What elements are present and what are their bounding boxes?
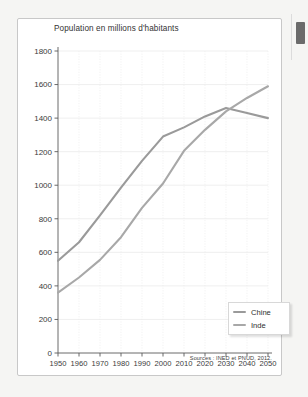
chart-legend: Chine Inde <box>228 302 290 335</box>
y-tick-label: 1600 <box>34 80 52 89</box>
legend-item-inde[interactable]: Inde <box>233 319 266 331</box>
scrollbar-track[interactable] <box>291 14 292 60</box>
legend-label-inde: Inde <box>251 321 266 330</box>
x-tick-label: 1950 <box>50 359 67 368</box>
chart-card: Population en millions d'habitants 02004… <box>17 18 282 376</box>
y-tick-label: 1400 <box>34 114 52 123</box>
x-tick-label: 1970 <box>92 359 109 368</box>
y-tick-label: 0 <box>48 349 53 358</box>
x-tick-label: 1990 <box>134 359 151 368</box>
y-tick-label: 800 <box>39 215 53 224</box>
y-axis-ticks <box>55 51 59 353</box>
x-tick-label: 1960 <box>71 359 88 368</box>
y-tick-label: 1800 <box>34 47 52 56</box>
y-tick-label: 600 <box>39 248 53 257</box>
legend-item-chine[interactable]: Chine <box>233 306 271 318</box>
legend-swatch-chine <box>233 311 246 313</box>
legend-swatch-inde <box>233 324 246 326</box>
y-tick-label: 1000 <box>34 181 52 190</box>
y-tick-label: 400 <box>39 282 53 291</box>
horizontal-gridlines <box>58 51 268 319</box>
scrollbar-thumb[interactable] <box>296 22 305 44</box>
y-axis-labels: 020040060080010001200140016001800 <box>34 47 52 358</box>
page-background: Population en millions d'habitants 02004… <box>0 0 308 397</box>
x-tick-label: 1980 <box>113 359 130 368</box>
y-tick-label: 1200 <box>34 148 52 157</box>
source-note: Sources : INED et PNUD, 2012. <box>190 355 272 361</box>
x-tick-label: 2000 <box>155 359 172 368</box>
legend-label-chine: Chine <box>251 308 271 317</box>
y-tick-label: 200 <box>39 315 53 324</box>
